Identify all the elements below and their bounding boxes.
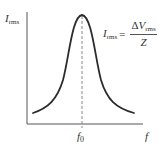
x-axis-label: f	[145, 131, 148, 142]
current-formula: Irms = ΔVrms Z	[103, 20, 157, 48]
y-axis-label: Irms	[5, 13, 19, 26]
formula-denominator: Z	[140, 35, 146, 48]
formula-lhs: Irms	[103, 27, 117, 41]
resonance-frequency-label: f0	[77, 131, 84, 144]
formula-fraction: ΔVrms Z	[130, 20, 156, 48]
formula-numerator: ΔVrms	[130, 20, 156, 35]
formula-equals: =	[119, 28, 125, 40]
